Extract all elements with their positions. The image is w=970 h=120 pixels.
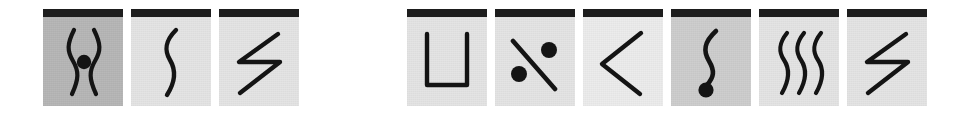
symbol-card-single-wave[interactable]	[131, 9, 211, 106]
triple-wave-icon	[759, 17, 839, 106]
symbol-card-percent-slash-two-dots[interactable]	[495, 9, 575, 106]
lightning-zigzag-icon	[847, 17, 927, 106]
symbol-card-lightning-zigzag[interactable]	[219, 9, 299, 106]
symbol-card-double-wave-with-center-dot[interactable]	[43, 9, 123, 106]
card-header-bar	[759, 9, 839, 17]
percent-slash-two-dots-icon	[495, 17, 575, 106]
card-header-bar	[43, 9, 123, 17]
symbol-card-chevron-left[interactable]	[583, 9, 663, 106]
u-bracket-icon	[407, 17, 487, 106]
card-group-right	[407, 0, 927, 120]
card-header-bar	[219, 9, 299, 17]
symbol-card-u-bracket[interactable]	[407, 9, 487, 106]
symbol-card-triple-wave[interactable]	[759, 9, 839, 106]
card-header-bar	[847, 9, 927, 17]
symbol-card-wave-with-bottom-dot[interactable]	[671, 9, 751, 106]
card-header-bar	[495, 9, 575, 17]
wave-with-bottom-dot-icon	[671, 17, 751, 106]
card-header-bar	[671, 9, 751, 17]
card-header-bar	[407, 9, 487, 17]
double-wave-with-center-dot-icon	[43, 17, 123, 106]
symbol-card-plate	[0, 0, 970, 120]
symbol-card-lightning-zigzag[interactable]	[847, 9, 927, 106]
chevron-left-icon	[583, 17, 663, 106]
card-group-left	[43, 0, 299, 120]
single-wave-icon	[131, 17, 211, 106]
card-header-bar	[131, 9, 211, 17]
card-header-bar	[583, 9, 663, 17]
lightning-zigzag-icon	[219, 17, 299, 106]
